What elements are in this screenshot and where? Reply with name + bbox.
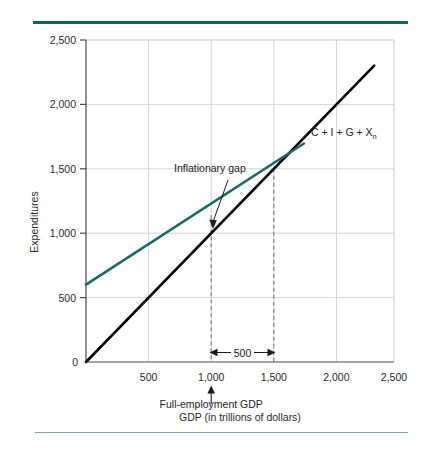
ae-line-label-subscript: n (373, 132, 377, 141)
ae-line-label-text: C + I + G + X (311, 126, 373, 138)
gap-measure-label: 500 (234, 347, 252, 359)
figure-container: 2,500 2,000 1,500 1,000 500 0 500 1,000 … (0, 0, 434, 459)
full-employment-gdp-label: Full-employment GDP (160, 398, 263, 410)
y-axis-title: Expenditures (28, 191, 40, 252)
y-tick-label-1000: 1,000 (50, 227, 76, 239)
y-tick-label-1500: 1,500 (50, 163, 76, 175)
y-tick-label-0: 0 (72, 356, 78, 368)
y-tick-label-500: 500 (58, 292, 76, 304)
inflationary-gap-label: Inflationary gap (174, 162, 246, 174)
y-tick-label-2500: 2,500 (50, 34, 76, 46)
chart-canvas: 2,500 2,000 1,500 1,000 500 0 500 1,000 … (0, 0, 434, 459)
x-tick-label-2000: 2,000 (323, 371, 349, 383)
x-tick-label-1000: 1,000 (198, 371, 224, 383)
x-tick-label-2500: 2,500 (381, 371, 407, 383)
x-axis-title: GDP (in trillions of dollars) (179, 411, 301, 423)
y-tick-label-2000: 2,000 (50, 98, 76, 110)
x-tick-label-1500: 1,500 (261, 371, 287, 383)
x-tick-label-500: 500 (140, 371, 158, 383)
y-axis-ticks (80, 40, 86, 298)
